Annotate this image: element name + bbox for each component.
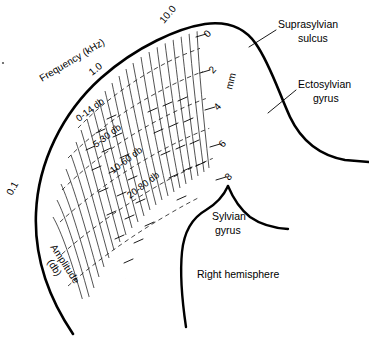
mm-tick-8: 8 [222, 171, 234, 183]
sylvian-sulcus-outline [181, 186, 228, 327]
mm-tick-6: 6 [216, 138, 228, 150]
leader-ectosylvian-gyrus [268, 90, 296, 113]
frequency-tick-10: 10.0 [157, 3, 178, 25]
mm-tick-2: 2 [206, 64, 218, 76]
frequency-tick-1: 1.0 [86, 60, 104, 77]
contour-label-10-60: 10-60 db [108, 144, 145, 175]
cortex-outline-main [36, 23, 369, 334]
diagram-canvas: Frequency (kHz) 10.0 1.0 0.1 mm 0 2 4 6 … [0, 0, 369, 344]
annotation-ectosylvian-gyrus-line1: Ectosylvian [298, 78, 351, 90]
annotation-right-hemisphere: Right hemisphere [197, 268, 279, 280]
annotation-sylvian-gyrus-line1: Sylvian [212, 210, 246, 222]
annotation-suprasylvian-sulcus-line2: sulcus [298, 32, 328, 44]
annotation-suprasylvian-sulcus-line1: Suprasylvian [278, 18, 338, 30]
mm-axis-label: mm [223, 72, 238, 91]
mm-tick-4: 4 [211, 101, 223, 113]
scan-artifact [2, 62, 4, 64]
contour-label-20-80: 20-80 db [125, 169, 162, 200]
annotation-ectosylvian-gyrus-line2: gyrus [313, 92, 339, 104]
frequency-axis-label: Frequency (kHz) [37, 36, 106, 83]
frequency-tick-0-1: 0.1 [4, 179, 20, 197]
tonotopic-map-figure: Frequency (kHz) 10.0 1.0 0.1 mm 0 2 4 6 … [0, 0, 369, 344]
mm-tick-0: 0 [201, 28, 213, 40]
sylvian-gyrus-branch [228, 186, 288, 229]
annotation-sylvian-gyrus-line2: gyrus [215, 224, 241, 236]
